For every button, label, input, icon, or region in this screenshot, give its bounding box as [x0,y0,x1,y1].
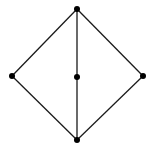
edge-top-left [12,9,77,76]
graph-diagram [0,0,154,151]
node-right [140,73,146,79]
edge-left-bottom [12,76,77,140]
node-bottom [74,137,80,143]
edge-top-right [77,9,143,76]
node-left [9,73,15,79]
edge-right-bottom [77,76,143,140]
node-top [74,6,80,12]
node-center [74,74,80,80]
